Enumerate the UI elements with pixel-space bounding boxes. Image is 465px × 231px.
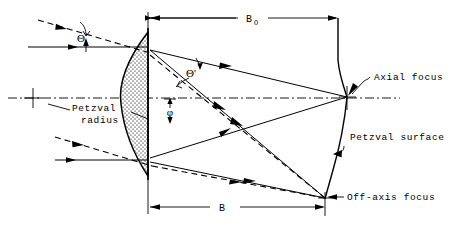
petzval-surface-curve <box>325 18 347 199</box>
optical-axis <box>8 88 400 108</box>
dashed-lower-ray-to-off-axis-focus <box>152 166 325 198</box>
off-axis-focus-annotation: Off-axis focus <box>327 192 435 203</box>
theta-prime-label: Θ' <box>186 67 196 79</box>
upper-dashed-incoming-ray <box>38 20 150 53</box>
dimension-b-o-label: B <box>246 14 252 25</box>
refracted-ray-top-to-axial-focus <box>150 50 347 97</box>
refracted-ray-top-to-off-axis-focus <box>150 50 325 198</box>
petzval-radius-label-line1: Petzval <box>72 103 116 114</box>
dimension-b-o-subscript: O <box>254 19 258 27</box>
dimension-b-o: B O <box>150 14 338 27</box>
off-axis-focus-label: Off-axis focus <box>347 192 435 203</box>
axial-focus-label: Axial focus <box>374 72 443 83</box>
dimension-b: B <box>150 203 325 214</box>
lower-incoming-ray <box>55 157 148 163</box>
petzval-radius-label-line2: radius <box>81 115 119 126</box>
phi-label: φ <box>167 106 173 118</box>
refracted-ray-bottom-to-axial-focus <box>150 97 347 158</box>
reference-ticks <box>148 12 347 216</box>
phi-angle-marker: φ <box>164 98 176 125</box>
dimension-b-label: B <box>219 203 225 214</box>
axial-focus-annotation: Axial focus <box>348 72 443 96</box>
diagram-canvas: Θ <box>0 0 465 231</box>
theta-label: Θ <box>77 32 85 44</box>
petzval-surface-annotation: Petzval surface <box>333 132 445 158</box>
dashed-chief-ray-to-off-axis-focus <box>150 55 325 198</box>
petzval-surface-label: Petzval surface <box>350 132 445 143</box>
refracted-ray-lower-to-off-axis-focus <box>150 162 325 198</box>
optical-diagram: Θ <box>0 0 465 231</box>
focus-point-markers <box>318 97 356 198</box>
